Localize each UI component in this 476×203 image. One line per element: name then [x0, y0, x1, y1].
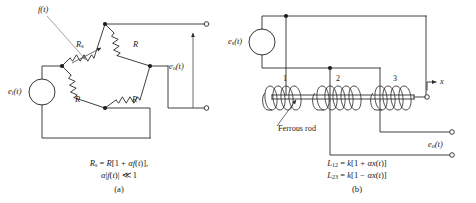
- label-r-bottom-right: R: [132, 95, 137, 104]
- caption-a-line1: Rs = R[1 + αf(t)],: [0, 158, 238, 170]
- coil-label-1: 1: [283, 74, 287, 83]
- panel-b-letter: (b): [238, 184, 476, 194]
- ferrous-rod-leader: [277, 100, 296, 126]
- label-r-top-right: R: [133, 40, 138, 49]
- displacement-arrow: [427, 82, 436, 90]
- label-eo-b: eo(t): [428, 140, 443, 149]
- wire-source-top: [42, 66, 62, 79]
- caption-a-line2: α|f(t)| ≪ 1: [0, 170, 238, 180]
- label-x-displacement: x: [440, 77, 444, 86]
- panel-a-circuit: [29, 16, 209, 138]
- figure-root: ei(t) eo(t) f(t) Rs R R R Rs = R[1 + αf(…: [0, 0, 476, 203]
- resistor-r-bottom-right: [105, 66, 150, 108]
- label-eo-a: eo(t): [169, 62, 184, 71]
- source-es: [249, 29, 275, 55]
- panel-a-letter: (a): [0, 184, 238, 194]
- coil-2: [313, 86, 361, 110]
- coil-label-2: 2: [336, 74, 340, 83]
- panel-b-circuit: [249, 14, 454, 157]
- coil-1: [263, 86, 301, 110]
- caption-b-line2: L23 = k[1 − αx(t)]: [238, 170, 476, 182]
- wire-es-bottom: [262, 55, 330, 68]
- caption-b-line1: L12 = k[1 + αx(t)]: [238, 158, 476, 170]
- wire-bottom-node-return: [105, 108, 150, 138]
- label-rs: Rs: [76, 40, 84, 49]
- coil-label-3: 3: [393, 74, 397, 83]
- output-terminal-lower: [450, 153, 455, 158]
- label-ft: f(t): [38, 5, 48, 14]
- resistor-r-top-right: [105, 24, 150, 66]
- label-r-bottom-left: R: [75, 95, 80, 104]
- wire-out-bottom: [168, 66, 205, 108]
- output-terminal-upper: [450, 130, 455, 135]
- wire-out-upper: [380, 101, 450, 132]
- resistor-r-bottom-left: [62, 66, 105, 108]
- wire-source-bottom: [42, 105, 150, 138]
- output-terminal-bottom: [204, 106, 209, 111]
- label-ei: ei(t): [8, 87, 21, 96]
- stimulus-leader: [47, 16, 86, 60]
- label-es: es(t): [228, 37, 242, 46]
- source-ei: [29, 79, 55, 105]
- output-terminal-top: [204, 22, 209, 27]
- label-ferrous-rod: Ferrous rod: [278, 124, 316, 133]
- coil-3: [371, 86, 411, 110]
